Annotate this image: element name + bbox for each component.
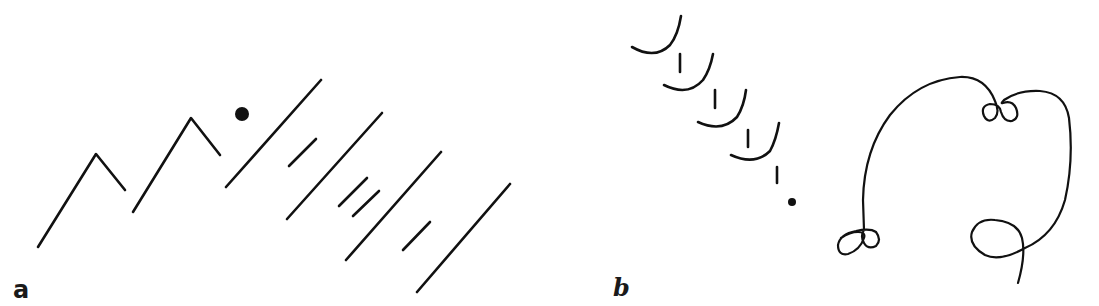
figure: a b (0, 0, 1099, 306)
zigzag-stroke-1 (38, 154, 125, 247)
panel-a-drawing (38, 80, 510, 292)
diagonal-line-3 (346, 152, 441, 260)
diagonal-dash-3 (353, 191, 379, 216)
looping-trajectory (838, 77, 1071, 283)
dot-marker-a (235, 107, 249, 121)
diagonal-dash-1 (289, 139, 316, 166)
figure-drawing (0, 0, 1099, 306)
panel-b-cups (632, 16, 796, 206)
dot-marker-b (788, 198, 796, 206)
diagonal-dash-4 (403, 222, 430, 250)
zigzag-stroke-2 (133, 118, 220, 212)
panel-label-a: a (13, 278, 29, 302)
cup-stroke-1 (632, 16, 681, 53)
diagonal-line-1 (226, 80, 321, 187)
cup-stroke-4 (731, 123, 779, 160)
cup-stroke-2 (664, 54, 713, 90)
cup-stroke-3 (698, 90, 746, 126)
panel-b-trajectory (838, 77, 1071, 283)
diagonal-line-4 (417, 184, 510, 292)
panel-label-b: b (613, 276, 630, 300)
diagonal-dash-2 (339, 178, 367, 206)
